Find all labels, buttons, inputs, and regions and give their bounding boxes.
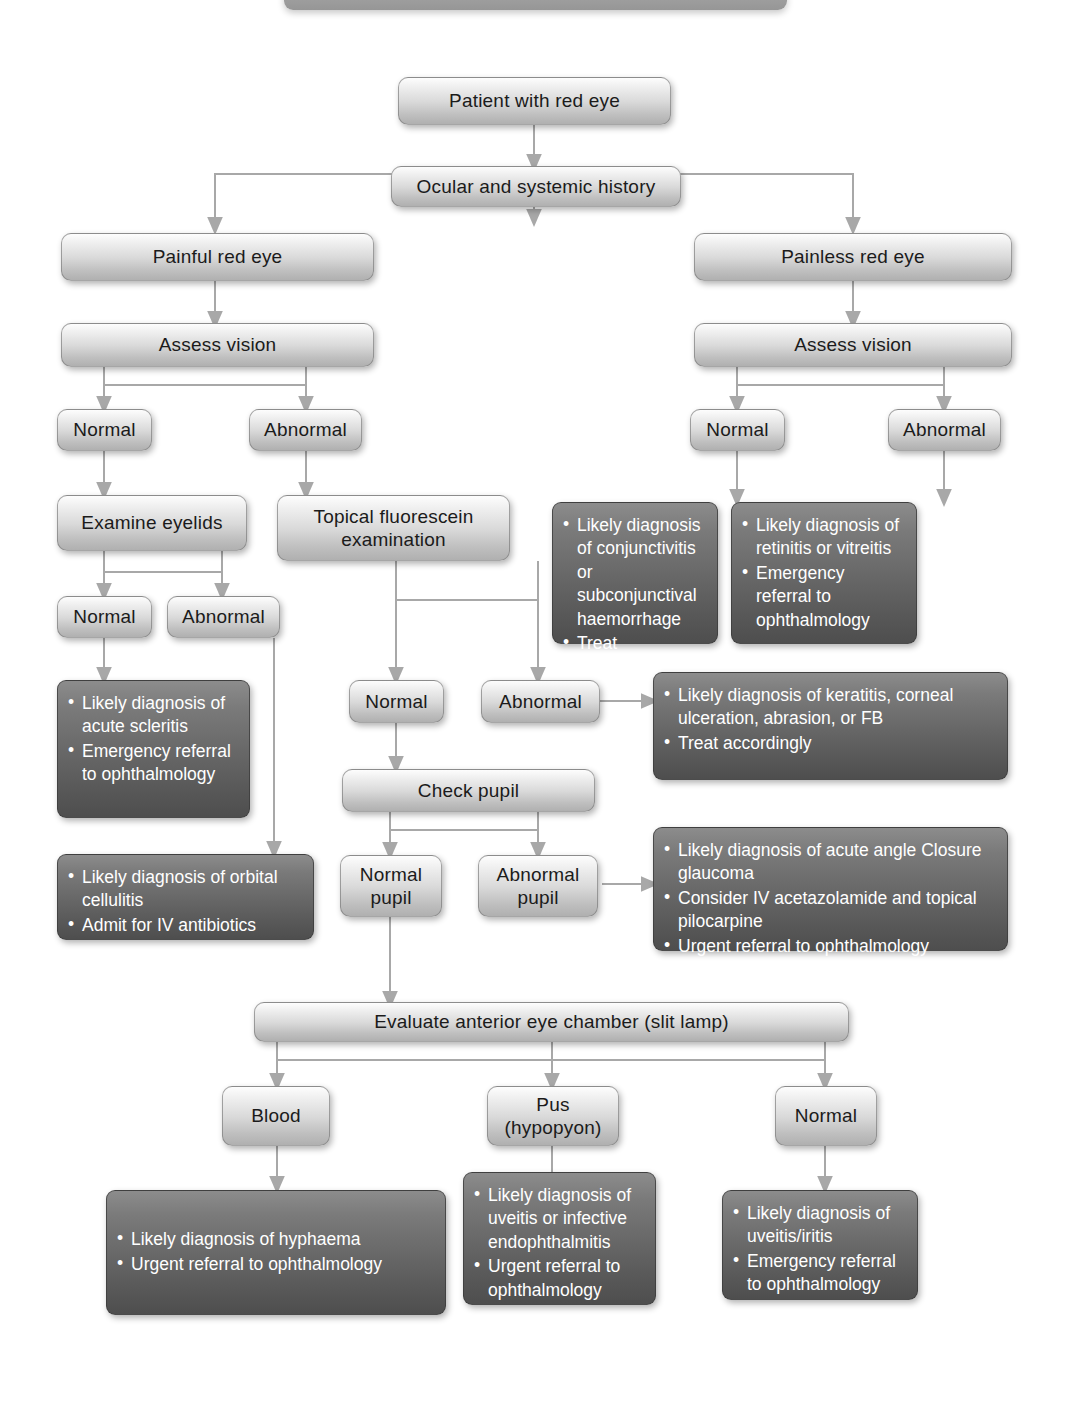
node-fluorescein-abnormal[interactable]: Abnormal <box>481 680 600 723</box>
outcome-conjunctivitis[interactable]: Likely diagnosis of conjunctivitis or su… <box>552 502 718 644</box>
outcome-item: Emergency referral to ophthalmology <box>733 1250 905 1297</box>
outcome-keratitis[interactable]: Likely diagnosis of keratitis, corneal u… <box>653 672 1008 780</box>
outcome-item: Likely diagnosis of keratitis, corneal u… <box>664 684 995 731</box>
outcome-item: Treat accordingly <box>664 732 995 755</box>
node-eyelids-normal[interactable]: Normal <box>57 596 152 638</box>
node-normal-pupil[interactable]: Normal pupil <box>340 855 442 917</box>
outcome-item: Likely diagnosis of uveitis/iritis <box>733 1202 905 1249</box>
outcome-item: Consider IV acetazolamide and topical pi… <box>664 887 995 934</box>
outcome-item: Urgent referral to ophthalmology <box>117 1253 433 1276</box>
outcome-acute-scleritis[interactable]: Likely diagnosis of acute scleritis Emer… <box>57 680 250 818</box>
node-chamber-normal[interactable]: Normal <box>775 1086 877 1146</box>
outcome-acute-angle-closure-glaucoma[interactable]: Likely diagnosis of acute angle Closure … <box>653 827 1008 951</box>
node-evaluate-anterior-eye-chamber[interactable]: Evaluate anterior eye chamber (slit lamp… <box>254 1002 849 1042</box>
node-abnormal-pupil[interactable]: Abnormal pupil <box>478 855 598 917</box>
node-fluorescein-normal[interactable]: Normal <box>349 680 444 723</box>
node-label: Abnormal <box>264 418 347 441</box>
flowchart-canvas: Patient with red eye Ocular and systemic… <box>0 0 1068 1409</box>
node-label: Patient with red eye <box>449 89 620 112</box>
node-painful-red-eye[interactable]: Painful red eye <box>61 233 374 281</box>
node-label: Normal <box>73 605 135 628</box>
node-label: Normal <box>795 1104 857 1127</box>
outcome-uveitis-iritis[interactable]: Likely diagnosis of uveitis/iritis Emerg… <box>722 1190 918 1300</box>
node-topical-fluorescein-examination[interactable]: Topical fluorescein examination <box>277 495 510 561</box>
node-assess-vision-painful[interactable]: Assess vision <box>61 323 374 367</box>
node-label-line1: Pus <box>536 1093 569 1116</box>
node-label: Painless red eye <box>781 245 925 268</box>
node-label-line1: Normal <box>360 863 422 886</box>
node-label-line2: examination <box>341 528 446 551</box>
node-examine-eyelids[interactable]: Examine eyelids <box>57 495 247 551</box>
node-assess-vision-painless[interactable]: Assess vision <box>694 323 1012 367</box>
node-label: Abnormal <box>182 605 265 628</box>
node-label-line2: pupil <box>517 886 558 909</box>
node-label: Check pupil <box>418 779 519 802</box>
node-label: Examine eyelids <box>81 511 222 534</box>
node-label: Evaluate anterior eye chamber (slit lamp… <box>374 1010 729 1033</box>
node-ocular-and-systemic-history[interactable]: Ocular and systemic history <box>391 166 681 207</box>
outcome-item: Likely diagnosis of orbital cellulitis <box>68 866 301 913</box>
outcome-item: Likely diagnosis of hyphaema <box>117 1228 433 1251</box>
outcome-uveitis-endophthalmitis[interactable]: Likely diagnosis of uveitis or infective… <box>463 1172 656 1305</box>
node-label: Normal <box>706 418 768 441</box>
outcome-item: Emergency referral to ophthalmology <box>68 740 237 787</box>
outcome-item: Likely diagnosis of conjunctivitis or su… <box>563 514 705 631</box>
node-chamber-blood[interactable]: Blood <box>222 1086 330 1146</box>
node-label-line1: Topical fluorescein <box>313 505 473 528</box>
outcome-item: Likely diagnosis of retinitis or vitreit… <box>742 514 904 561</box>
outcome-item: Admit for IV antibiotics <box>68 914 301 937</box>
node-painful-vision-abnormal[interactable]: Abnormal <box>249 409 362 451</box>
node-label: Normal <box>365 690 427 713</box>
node-label: Ocular and systemic history <box>417 175 656 198</box>
outcome-item: Urgent referral to ophthalmology <box>474 1255 643 1302</box>
node-painless-red-eye[interactable]: Painless red eye <box>694 233 1012 281</box>
outcome-item: Likely diagnosis of acute scleritis <box>68 692 237 739</box>
outcome-item: Urgent referral to ophthalmology <box>664 935 995 958</box>
node-label: Assess vision <box>159 333 277 356</box>
outcome-orbital-cellulitis[interactable]: Likely diagnosis of orbital cellulitis A… <box>57 854 314 940</box>
outcome-item: Likely diagnosis of uveitis or infective… <box>474 1184 643 1254</box>
node-label: Assess vision <box>794 333 912 356</box>
node-label: Normal <box>73 418 135 441</box>
node-label: Abnormal <box>903 418 986 441</box>
outcome-item: Emergency referral to ophthalmology <box>742 562 904 632</box>
node-patient-with-red-eye[interactable]: Patient with red eye <box>398 77 671 125</box>
node-label: Blood <box>251 1104 301 1127</box>
node-label: Painful red eye <box>153 245 283 268</box>
node-eyelids-abnormal[interactable]: Abnormal <box>167 596 280 638</box>
node-painless-vision-abnormal[interactable]: Abnormal <box>888 409 1001 451</box>
node-label-line2: (hypopyon) <box>504 1116 601 1139</box>
node-check-pupil[interactable]: Check pupil <box>342 769 595 812</box>
node-chamber-pus-hypopyon[interactable]: Pus (hypopyon) <box>487 1086 619 1146</box>
node-label: Abnormal <box>499 690 582 713</box>
node-label-line1: Abnormal <box>497 863 580 886</box>
node-painful-vision-normal[interactable]: Normal <box>57 409 152 451</box>
outcome-retinitis-vitreitis[interactable]: Likely diagnosis of retinitis or vitreit… <box>731 502 917 644</box>
node-painless-vision-normal[interactable]: Normal <box>690 409 785 451</box>
outcome-hyphaema[interactable]: Likely diagnosis of hyphaema Urgent refe… <box>106 1190 446 1315</box>
top-header-bar <box>284 0 787 10</box>
node-label-line2: pupil <box>370 886 411 909</box>
outcome-item: Likely diagnosis of acute angle Closure … <box>664 839 995 886</box>
